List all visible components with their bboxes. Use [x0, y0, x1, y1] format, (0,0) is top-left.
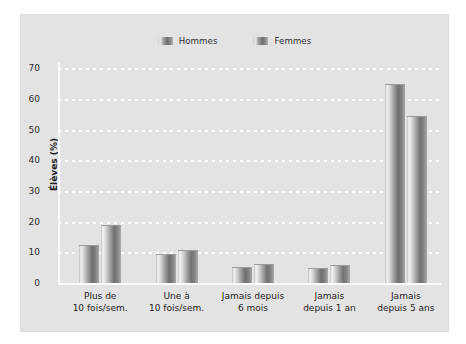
- bar-hommes-3: [308, 268, 328, 283]
- y-tick-label: 10: [0, 248, 40, 257]
- y-tick-label: 70: [0, 64, 40, 73]
- x-tick-label-line: depuis 5 ans: [351, 303, 461, 315]
- gridline: [58, 160, 440, 162]
- gridline: [58, 191, 440, 193]
- y-tick-label: 60: [0, 94, 40, 103]
- legend-swatch-icon-hommes: [158, 37, 173, 45]
- x-tick-label-line: Jamais: [351, 291, 461, 303]
- gridline: [58, 99, 440, 101]
- y-axis-line: [58, 62, 60, 285]
- gridline: [58, 68, 440, 70]
- legend-item-femmes: Femmes: [253, 37, 311, 46]
- legend-swatch-icon-femmes: [253, 37, 268, 45]
- bar-femmes-4: [407, 116, 427, 283]
- x-axis-tick-labels: Plus de10 fois/sem.Une à10 fois/sem.Jama…: [58, 291, 441, 325]
- bar-femmes-3: [330, 265, 350, 283]
- y-tick-label: 20: [0, 217, 40, 226]
- chart-figure: Hommes Femmes Élèves (%) 010203040506070…: [0, 0, 466, 344]
- plot-area: [58, 62, 440, 283]
- legend-label-femmes: Femmes: [274, 37, 311, 46]
- y-tick-label: 0: [0, 279, 40, 288]
- bar-femmes-1: [178, 250, 198, 283]
- x-axis-line: [58, 283, 441, 285]
- gridline: [58, 222, 440, 224]
- bar-hommes-4: [385, 84, 405, 283]
- bar-femmes-2: [254, 264, 274, 283]
- y-tick-label: 50: [0, 125, 40, 134]
- bar-hommes-1: [156, 254, 176, 283]
- chart-legend: Hommes Femmes: [21, 33, 448, 49]
- x-tick-label: Jamaisdepuis 5 ans: [351, 291, 461, 314]
- y-tick-label: 30: [0, 186, 40, 195]
- bar-hommes-2: [232, 267, 252, 283]
- legend-item-hommes: Hommes: [158, 37, 218, 46]
- gridline: [58, 130, 440, 132]
- bar-femmes-0: [101, 225, 121, 283]
- legend-label-hommes: Hommes: [179, 37, 218, 46]
- y-tick-label: 40: [0, 156, 40, 165]
- bar-hommes-0: [79, 245, 99, 283]
